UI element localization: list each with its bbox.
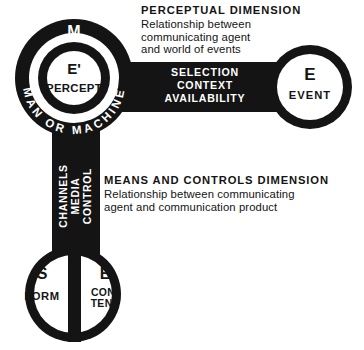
perceptual-dimension-heading: PERCEPTUAL DIMENSION [141, 4, 301, 16]
node-man-or-machine: M MAN OR MACHINE E' PERCEPT [15, 19, 133, 137]
product-right-label-line2: TENT [91, 298, 120, 309]
event-label: EVENT [289, 89, 331, 101]
perceptual-desc-line-3: and world of events [141, 43, 251, 56]
perceptual-desc-line-1: Relationship between [141, 18, 251, 31]
agent-inner-label: PERCEPT [46, 82, 102, 94]
means-desc-line-2: agent and communication product [104, 201, 295, 214]
node-communication-product: S FORM E CON- TENT [24, 246, 121, 342]
means-controls-dimension-description: Relationship between communicating agent… [104, 188, 295, 213]
product-left-symbol: S [37, 265, 48, 282]
connector-line-availability: AVAILABILITY [164, 92, 245, 104]
connector-line-channels: CHANNELS [58, 164, 69, 227]
node-event: E EVENT [268, 45, 352, 129]
product-divider [68, 246, 81, 342]
connector-line-control: CONTROL [82, 168, 93, 224]
perceptual-dimension-description: Relationship between communicating agent… [141, 18, 251, 56]
product-left-label: FORM [24, 290, 59, 302]
diagram-canvas: SELECTION CONTEXT AVAILABILITY CHANNELS … [0, 0, 364, 350]
event-symbol: E [304, 65, 315, 84]
agent-inner-symbol: E' [67, 60, 81, 77]
means-controls-dimension-heading: MEANS AND CONTROLS DIMENSION [104, 174, 329, 186]
connector-line-media: MEDIA [70, 178, 81, 215]
connector-line-context: CONTEXT [177, 79, 233, 91]
product-right-symbol: E [100, 265, 111, 282]
agent-ring-letter: M [67, 23, 80, 40]
product-right-label-line1: CON- [91, 287, 119, 298]
means-desc-line-1: Relationship between communicating [104, 188, 295, 201]
perceptual-desc-line-2: communicating agent [141, 31, 251, 44]
event-face [277, 54, 343, 120]
connector-line-selection: SELECTION [171, 66, 239, 78]
